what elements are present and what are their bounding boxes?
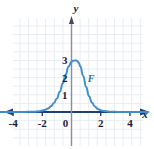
x-axis-label: x [141,108,148,120]
grid-lines [13,18,143,146]
y-tick-label-2: 2 [62,72,68,84]
x-tick-label-2: 2 [98,117,104,129]
y-tick-label-1: 1 [62,89,68,101]
plot-canvas: -4-2024 123 x y F [0,0,154,149]
y-tick-label-3: 3 [62,54,68,66]
x-tick-label--2: -2 [38,117,48,129]
y-axis-label: y [72,2,79,14]
y-axis-tick-labels: 123 [62,54,68,100]
y-axis-top-arrow [69,16,74,24]
x-tick-label-0: 0 [63,117,69,129]
graph-figure: -4-2024 123 x y F [0,0,154,149]
curve-label-F: F [87,73,95,84]
x-tick-label--4: -4 [9,117,19,129]
x-tick-label-4: 4 [127,117,133,129]
